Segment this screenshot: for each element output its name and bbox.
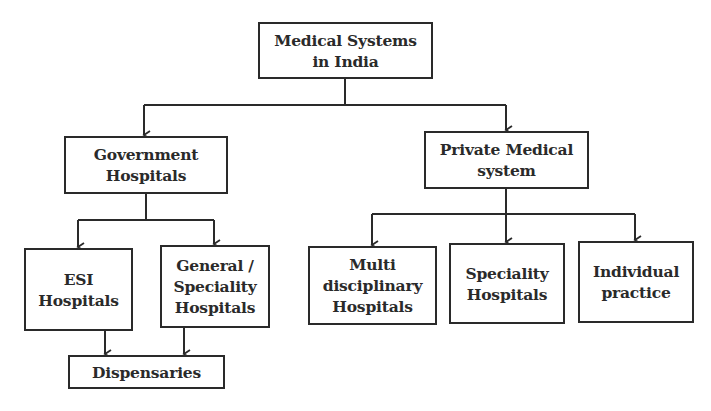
node-medical-systems-in-india: Medical Systems in India	[258, 22, 433, 79]
node-esi-hospitals: ESI Hospitals	[24, 248, 133, 331]
node-government-hospitals: Government Hospitals	[64, 136, 228, 194]
medical-systems-diagram: Medical Systems in India Government Hosp…	[0, 0, 711, 411]
node-dispensaries: Dispensaries	[68, 355, 225, 389]
node-individual-practice: Individual practice	[578, 241, 694, 323]
node-speciality-hospitals: Speciality Hospitals	[449, 243, 565, 324]
node-private-medical-system: Private Medical system	[424, 131, 589, 189]
node-general-speciality-hospitals: General / Speciality Hospitals	[160, 245, 270, 328]
node-multi-disciplinary-hospitals: Multi disciplinary Hospitals	[308, 246, 437, 325]
